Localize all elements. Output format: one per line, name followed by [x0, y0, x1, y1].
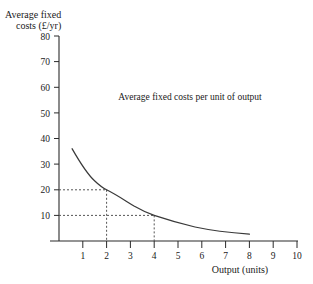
y-tick-label: 80 — [41, 32, 51, 42]
average-fixed-cost-curve — [72, 149, 249, 235]
y-axis-ticks — [54, 36, 59, 215]
chart-annotation: Average fixed costs per unit of output — [118, 92, 262, 102]
x-axis-title: Output (units) — [212, 264, 268, 276]
y-axis-title-line1: Average fixed — [5, 9, 61, 20]
x-axis-tick-labels: 1 2 3 4 5 6 7 8 9 10 — [80, 251, 302, 261]
y-tick-label: 20 — [41, 185, 51, 195]
y-tick-label: 10 — [41, 211, 51, 221]
y-axis-tick-labels: 10 20 30 40 50 60 70 80 — [41, 32, 51, 221]
y-tick-label: 30 — [41, 160, 51, 170]
y-axis-title-line2: costs (£/yr) — [16, 20, 61, 32]
y-tick-label: 50 — [41, 109, 51, 119]
x-tick-label: 6 — [199, 251, 204, 261]
x-tick-label: 3 — [128, 251, 133, 261]
x-tick-label: 1 — [80, 251, 85, 261]
average-fixed-cost-chart: 10 20 30 40 50 60 70 80 1 2 3 4 5 — [0, 0, 313, 284]
x-tick-label: 10 — [292, 251, 302, 261]
x-tick-label: 2 — [104, 251, 109, 261]
y-tick-label: 70 — [41, 57, 51, 67]
x-tick-label: 7 — [223, 251, 228, 261]
chart-page: 10 20 30 40 50 60 70 80 1 2 3 4 5 — [0, 0, 313, 284]
x-axis-ticks — [83, 241, 297, 248]
y-tick-label: 40 — [41, 134, 51, 144]
x-tick-label: 8 — [247, 251, 252, 261]
x-tick-label: 5 — [176, 251, 181, 261]
x-tick-label: 9 — [271, 251, 276, 261]
y-tick-label: 60 — [41, 83, 51, 93]
guide-lines-group — [59, 190, 154, 241]
x-tick-label: 4 — [152, 251, 157, 261]
